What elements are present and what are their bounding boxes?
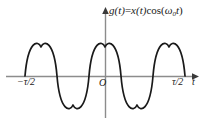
formula-omega: ω [165, 4, 173, 16]
formula-paren-t-1: (t) [115, 4, 125, 16]
x-tick-label-left: −τ/2 [17, 77, 35, 87]
formula-label: g(t)=x(t)cos(ω0t) [109, 5, 183, 18]
waveform-figure: g(t)=x(t)cos(ω0t) −τ/2 O τ/2 t [0, 0, 205, 120]
formula-close-paren: ) [179, 4, 183, 16]
x-axis-name-label: t [192, 77, 195, 87]
waveform-plot [0, 0, 205, 120]
y-axis [102, 7, 109, 118]
origin-label: O [99, 78, 106, 88]
y-axis-arrowhead-icon [102, 7, 109, 14]
x-tick-label-right: τ/2 [172, 77, 183, 87]
formula-cos: cos( [146, 4, 164, 16]
formula-paren-t-2: (t) [136, 4, 146, 16]
